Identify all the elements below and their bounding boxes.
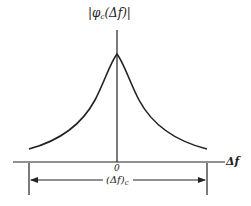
coherence-bandwidth-label: (Δf)c xyxy=(104,175,131,187)
right-arrowhead xyxy=(198,177,206,183)
x-axis-label: Δf xyxy=(226,156,239,167)
y-axis-title: |φc(Δf)| xyxy=(88,7,131,21)
left-arrowhead xyxy=(30,177,38,183)
origin-label: 0 xyxy=(114,164,120,173)
correlation-curve xyxy=(29,54,207,149)
